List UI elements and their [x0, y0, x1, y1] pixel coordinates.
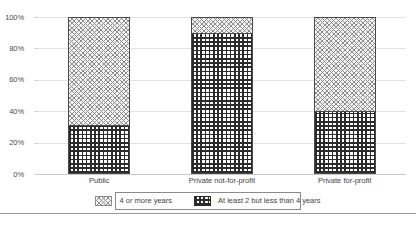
bar-public[interactable] — [68, 17, 130, 174]
bar-private-not-for-profit[interactable] — [191, 17, 253, 174]
footer-note — [4, 217, 224, 225]
y-axis-label-20: 20% — [0, 139, 24, 147]
legend-item-4-or-more-years[interactable]: 4 or more years — [95, 196, 172, 206]
bar-segment-at-least-2-less-than-4 — [191, 33, 253, 174]
y-axis-label-60: 60% — [0, 76, 24, 84]
chart-legend: 4 or more years At least 2 but less than… — [0, 192, 416, 210]
gridline-0 — [38, 174, 406, 175]
x-axis-label-private-not-for-profit: Private not-for-profit — [162, 177, 282, 185]
bar-segment-at-least-2-less-than-4 — [68, 125, 130, 174]
bar-segment-4-or-more-years — [191, 17, 253, 33]
bar-segment-at-least-2-less-than-4 — [314, 111, 376, 174]
legend-label-at-least-2-less-than-4: At least 2 but less than 4 years — [218, 197, 321, 205]
plot-area: 100% 80% 60% 40% 20% 0% — [38, 17, 406, 174]
y-axis-label-0: 0% — [0, 171, 24, 179]
y-axis-label-80: 80% — [0, 45, 24, 53]
y-axis-label-100: 100% — [0, 14, 24, 22]
bar-group — [38, 17, 406, 174]
stacked-bar-chart: 100% 80% 60% 40% 20% 0% Public Private n… — [0, 0, 416, 227]
legend-swatch-icon-diagonal — [95, 196, 112, 206]
bar-private-for-profit[interactable] — [314, 17, 376, 174]
y-axis-label-40: 40% — [0, 108, 24, 116]
x-axis-label-public: Public — [39, 177, 159, 185]
x-axis-label-private-for-profit: Private for-profit — [285, 177, 405, 185]
legend-item-at-least-2-less-than-4[interactable]: At least 2 but less than 4 years — [194, 196, 321, 206]
tick-mark-0 — [34, 174, 38, 175]
legend-swatch-icon-grid — [194, 196, 211, 206]
bar-segment-4-or-more-years — [314, 17, 376, 111]
legend-label-4-or-more-years: 4 or more years — [119, 197, 172, 205]
footer-divider — [0, 213, 416, 214]
bar-segment-4-or-more-years — [68, 17, 130, 125]
x-axis-labels: Public Private not-for-profit Private fo… — [38, 177, 406, 191]
